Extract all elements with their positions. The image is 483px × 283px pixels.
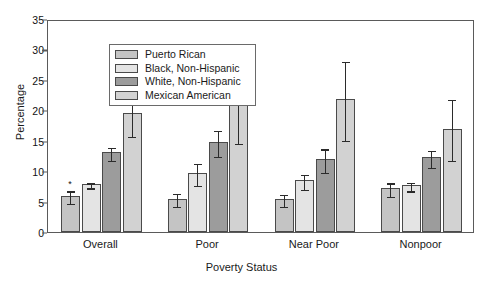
- error-bar-cap: [280, 195, 288, 196]
- error-bar-cap: [87, 183, 95, 184]
- error-bar-cap: [342, 141, 350, 142]
- error-bar: [345, 62, 346, 141]
- x-axis-group-label: Overall: [47, 238, 154, 250]
- error-bar-cap: [235, 144, 243, 145]
- legend-swatch: [115, 50, 138, 59]
- error-bar-cap: [173, 194, 181, 195]
- legend-item: White, Non-Hispanic: [115, 75, 250, 89]
- bar: [102, 152, 121, 232]
- error-bar: [452, 100, 453, 161]
- error-bar-cap: [214, 157, 222, 158]
- error-bar-cap: [67, 204, 75, 205]
- legend-item: Mexican American: [115, 89, 250, 103]
- y-axis-tick-label: 35: [0, 15, 44, 25]
- legend-swatch: [115, 64, 138, 73]
- plot-area: * Puerto RicanBlack, Non-HispanicWhite, …: [47, 20, 474, 233]
- error-bar: [284, 195, 285, 207]
- error-bar-cap: [321, 149, 329, 150]
- error-bar: [111, 148, 112, 161]
- error-bar: [197, 164, 198, 186]
- error-bar: [390, 183, 391, 196]
- legend-label: Black, Non-Hispanic: [145, 63, 240, 74]
- legend-label: White, Non-Hispanic: [145, 76, 241, 87]
- x-axis-group-label: Nonpoor: [367, 238, 474, 250]
- y-axis-tick-label: 0: [0, 228, 44, 238]
- error-bar-cap: [301, 190, 309, 191]
- error-bar: [218, 131, 219, 157]
- error-bar: [325, 149, 326, 172]
- error-bar-cap: [321, 173, 329, 174]
- error-bar-cap: [108, 148, 116, 149]
- legend-item: Black, Non-Hispanic: [115, 62, 250, 76]
- error-bar-cap: [194, 164, 202, 165]
- x-axis-group-label: Near Poor: [261, 238, 368, 250]
- error-bar: [431, 151, 432, 168]
- legend-item: Puerto Rican: [115, 48, 250, 62]
- error-bar-cap: [448, 100, 456, 101]
- error-bar-cap: [448, 161, 456, 162]
- error-bar-cap: [387, 197, 395, 198]
- error-bar-cap: [214, 131, 222, 132]
- bar: [82, 184, 101, 232]
- y-axis-tick-label: 5: [0, 198, 44, 208]
- error-bar: [411, 183, 412, 192]
- error-bar-cap: [280, 207, 288, 208]
- error-bar-cap: [194, 186, 202, 187]
- error-bar-cap: [67, 191, 75, 192]
- error-bar-cap: [342, 62, 350, 63]
- y-axis-tick-label: 15: [0, 137, 44, 147]
- x-axis-title: Poverty Status: [0, 261, 483, 273]
- error-bar-cap: [87, 188, 95, 189]
- legend-label: Mexican American: [145, 90, 231, 101]
- y-axis-tick-label: 10: [0, 167, 44, 177]
- error-bar-cap: [301, 175, 309, 176]
- x-axis-group-label: Poor: [154, 238, 261, 250]
- error-bar-cap: [173, 207, 181, 208]
- error-bar: [177, 194, 178, 207]
- bar-chart: Percentage 05101520253035 * Puerto Rican…: [0, 0, 483, 283]
- y-axis-tick-label: 30: [0, 45, 44, 55]
- error-bar-cap: [428, 168, 436, 169]
- legend-swatch: [115, 77, 138, 86]
- chart-legend: Puerto RicanBlack, Non-HispanicWhite, No…: [109, 44, 256, 106]
- significance-marker: *: [68, 180, 72, 189]
- error-bar: [70, 191, 71, 203]
- legend-swatch: [115, 91, 138, 100]
- error-bar-cap: [108, 161, 116, 162]
- error-bar-cap: [407, 183, 415, 184]
- error-bar: [304, 175, 305, 190]
- legend-label: Puerto Rican: [145, 49, 206, 60]
- y-axis-tick-label: 25: [0, 76, 44, 86]
- error-bar-cap: [128, 137, 136, 138]
- error-bar-cap: [428, 151, 436, 152]
- error-bar-cap: [407, 191, 415, 192]
- y-axis-tick-label: 20: [0, 106, 44, 116]
- error-bar-cap: [387, 183, 395, 184]
